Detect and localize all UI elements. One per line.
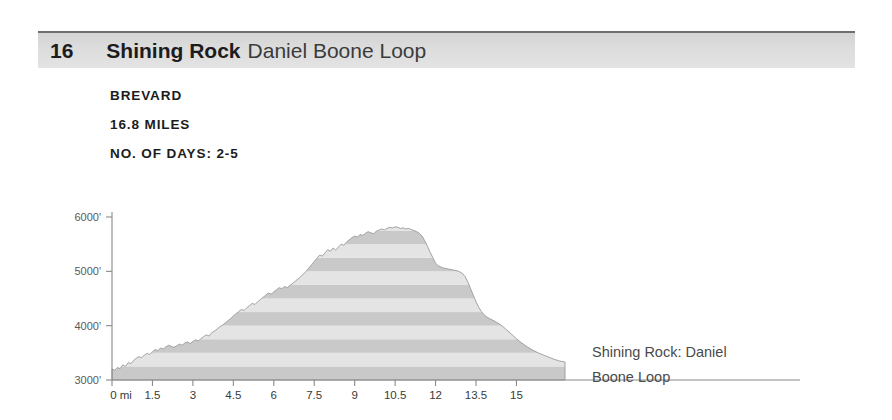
x-tick-label: 10.5 (384, 389, 406, 401)
x-tick-label: 1.5 (144, 389, 160, 401)
meta-distance: 16.8 MILES (110, 117, 239, 132)
elevation-band (112, 203, 565, 217)
elevation-band (112, 353, 565, 367)
meta-days: NO. OF DAYS: 2-5 (110, 146, 239, 161)
caption-line-2: Boone Loop (592, 365, 822, 390)
x-tick-label: 12 (429, 389, 442, 401)
x-tick-label: 7.5 (306, 389, 322, 401)
chapter-title: Shining RockDaniel Boone Loop (106, 39, 426, 63)
x-tick-label: 4.5 (225, 389, 241, 401)
elevation-band (112, 312, 565, 326)
chapter-title-secondary: Daniel Boone Loop (248, 39, 427, 62)
elevation-band (112, 326, 565, 340)
elevation-band (112, 271, 565, 285)
chapter-header-bar: 16 Shining RockDaniel Boone Loop (38, 31, 855, 68)
x-tick-label: 15 (510, 389, 523, 401)
y-axis-labels: 3000'4000'5000'6000' (74, 211, 112, 386)
x-tick-label: 3 (190, 389, 196, 401)
elevation-band (112, 366, 565, 380)
elevation-band (112, 217, 565, 231)
caption-line-1: Shining Rock: Daniel (592, 340, 822, 365)
x-tick-label: 13.5 (465, 389, 487, 401)
chart-caption: Shining Rock: Daniel Boone Loop (592, 340, 822, 390)
meta-location: BREVARD (110, 88, 239, 103)
y-tick-label: 3000' (74, 374, 101, 386)
elevation-band (112, 258, 565, 272)
elevation-band (112, 299, 565, 313)
x-axis-labels: 0 mi1.534.567.5910.51213.515 (110, 380, 523, 401)
elevation-band (112, 195, 565, 203)
elevation-bands (112, 195, 565, 380)
elevation-band (112, 285, 565, 299)
y-tick-label: 5000' (74, 265, 101, 277)
chapter-title-primary: Shining Rock (106, 39, 240, 62)
x-tick-label: 0 mi (110, 389, 132, 401)
y-tick-label: 6000' (74, 211, 101, 223)
x-tick-label: 9 (351, 389, 357, 401)
chapter-number: 16 (50, 39, 73, 63)
elevation-band (112, 339, 565, 353)
x-tick-label: 6 (271, 389, 277, 401)
elevation-band (112, 244, 565, 258)
elevation-band (112, 231, 565, 245)
y-tick-label: 4000' (74, 320, 101, 332)
trail-meta-block: BREVARD 16.8 MILES NO. OF DAYS: 2-5 (110, 88, 239, 175)
